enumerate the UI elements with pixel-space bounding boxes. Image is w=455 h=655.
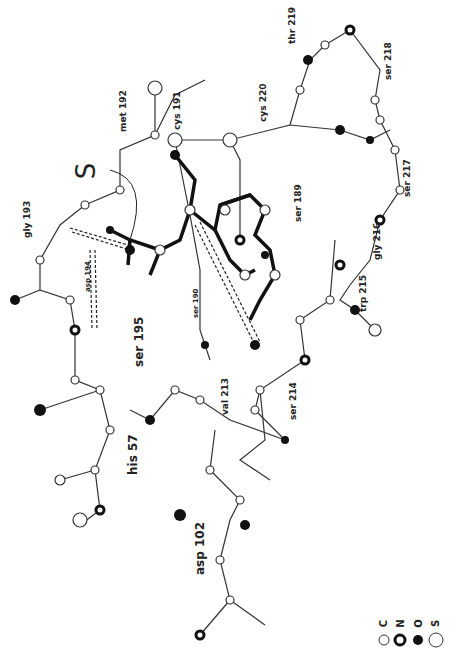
label-val213: val 213 bbox=[220, 378, 230, 415]
label-thr219: thr 219 bbox=[287, 7, 297, 44]
marker-s: S bbox=[71, 163, 101, 180]
label-cys191: cys 191 bbox=[172, 92, 182, 130]
label-asp102: asp 102 bbox=[193, 522, 207, 575]
legend-label-n: N bbox=[395, 619, 406, 627]
label-gly216: gly 216 bbox=[372, 223, 382, 260]
label-ser214: ser 214 bbox=[288, 382, 298, 420]
label-ser218: ser 218 bbox=[383, 42, 393, 80]
legend-label-s: S bbox=[430, 620, 441, 627]
bond-network bbox=[0, 0, 455, 655]
label-met192: met 192 bbox=[118, 90, 128, 132]
molecular-diagram: S gly 193 met 192 cys 191 cys 220 thr 21… bbox=[0, 0, 455, 655]
label-ser195: ser 195 bbox=[132, 317, 146, 367]
label-trp215: trp 215 bbox=[358, 275, 368, 312]
legend-symbols bbox=[379, 633, 443, 647]
legend-label-o: O bbox=[413, 619, 424, 628]
label-asp194: asp 194 bbox=[84, 261, 92, 292]
label-ser217: ser 217 bbox=[402, 159, 412, 197]
label-cys220: cys 220 bbox=[258, 84, 268, 122]
label-gly193: gly 193 bbox=[22, 201, 32, 238]
legend-label-c: C bbox=[378, 620, 389, 627]
label-his57: his 57 bbox=[126, 434, 140, 475]
label-ser189: ser 189 bbox=[293, 184, 303, 222]
label-ser190: ser 190 bbox=[192, 289, 200, 318]
